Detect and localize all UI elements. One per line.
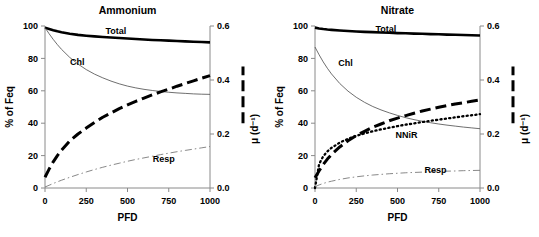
y-tick-label: 100 [23, 21, 38, 31]
y-tick-label: 20 [28, 151, 38, 161]
series-label-total: Total [376, 24, 397, 34]
series-line-total [315, 28, 480, 36]
series-label-nnir: NNiR [396, 130, 418, 140]
y-tick-label: 100 [293, 21, 308, 31]
y2-tick-label: 0.4 [217, 75, 230, 85]
series-label-chl: Chl [70, 57, 85, 67]
x-tick-label: 500 [390, 196, 405, 206]
y2-axis-title: μ (d⁻¹) [249, 114, 260, 144]
x-tick-label: 250 [349, 196, 364, 206]
y2-tick-label: 0.2 [217, 129, 230, 139]
x-tick-label: 250 [79, 196, 94, 206]
y-axis-right: 0.00.20.40.6 [210, 21, 230, 193]
series-label-chl: Chl [338, 58, 353, 68]
y-axis-left: 020406080100 [293, 21, 315, 193]
y-tick-label: 60 [298, 86, 308, 96]
y2-tick-label: 0.0 [487, 183, 500, 193]
series-label-total: Total [106, 26, 127, 36]
y-tick-label: 0 [33, 183, 38, 193]
y-axis-right: 0.00.20.40.6 [480, 21, 500, 193]
x-tick-label: 500 [120, 196, 135, 206]
x-tick-label: 750 [431, 196, 446, 206]
y2-tick-label: 0.4 [487, 75, 500, 85]
y-tick-label: 40 [298, 118, 308, 128]
y-tick-label: 20 [298, 151, 308, 161]
y-tick-label: 80 [28, 54, 38, 64]
x-axis: 02505007501000 [42, 188, 220, 206]
chart-title: Ammonium [99, 4, 157, 16]
series-line-resp [45, 147, 210, 188]
x-tick-label: 0 [42, 196, 47, 206]
x-tick-label: 0 [312, 196, 317, 206]
y-axis-title: % of Feq [4, 86, 15, 128]
y2-tick-label: 0.6 [487, 21, 500, 31]
figure-two-panel-chart: Ammonium0204060801000.00.20.40.602505007… [0, 0, 539, 237]
y2-tick-label: 0.6 [217, 21, 230, 31]
series-line-resp [315, 170, 480, 186]
x-tick-label: 1000 [470, 196, 490, 206]
x-axis-title: PFD [118, 212, 138, 223]
chart-panel-nitrate: Nitrate0204060801000.00.20.40.6025050075… [270, 0, 539, 237]
y2-tick-label: 0.0 [217, 183, 230, 193]
chart-panel-ammonium: Ammonium0204060801000.00.20.40.602505007… [0, 0, 269, 237]
x-axis-title: PFD [388, 212, 408, 223]
chart-svg-ammonium: Ammonium0204060801000.00.20.40.602505007… [0, 0, 269, 237]
chart-title: Nitrate [381, 4, 414, 16]
x-tick-label: 1000 [200, 196, 220, 206]
series-line-total [45, 28, 210, 43]
axes [315, 26, 480, 188]
y-tick-label: 60 [28, 86, 38, 96]
series-line-mu [45, 76, 210, 178]
y-tick-label: 40 [28, 118, 38, 128]
series-label-resp: Resp [153, 154, 176, 164]
y-axis-title: % of Feq [274, 86, 285, 128]
chart-svg-nitrate: Nitrate0204060801000.00.20.40.6025050075… [270, 0, 539, 237]
series-line-nnir [315, 114, 480, 188]
series-label-resp: Resp [424, 165, 447, 175]
x-tick-label: 750 [161, 196, 176, 206]
axes [45, 26, 210, 188]
y-tick-label: 80 [298, 54, 308, 64]
y-tick-label: 0 [303, 183, 308, 193]
y-axis-left: 020406080100 [23, 21, 45, 193]
y2-tick-label: 0.2 [487, 129, 500, 139]
y2-axis-title: μ (d⁻¹) [519, 114, 530, 144]
x-axis: 02505007501000 [312, 188, 490, 206]
